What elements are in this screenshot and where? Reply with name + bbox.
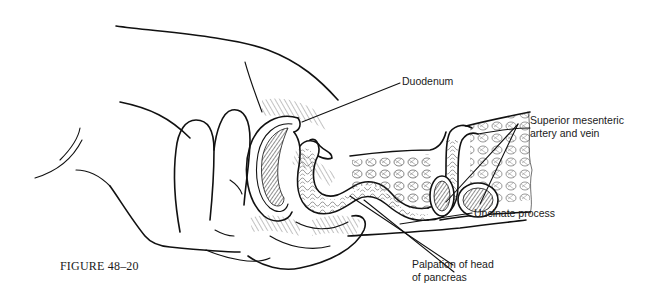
label-duodenum: Duodenum <box>402 75 453 88</box>
label-uncinate-process: Uncinate process <box>474 207 555 220</box>
figure-caption: FIGURE 48–20 <box>60 259 139 274</box>
label-palpation-line2: of pancreas <box>412 271 467 284</box>
label-sma-line1: Superior mesenteric <box>530 114 624 127</box>
figure-canvas: Duodenum Superior mesenteric artery and … <box>0 0 663 294</box>
duodenum-section <box>246 116 300 221</box>
label-palpation-line1: Palpation of head <box>412 258 494 271</box>
label-sma-line2: artery and vein <box>530 127 599 140</box>
leader-duodenum <box>302 83 400 122</box>
anatomical-illustration <box>0 0 663 294</box>
